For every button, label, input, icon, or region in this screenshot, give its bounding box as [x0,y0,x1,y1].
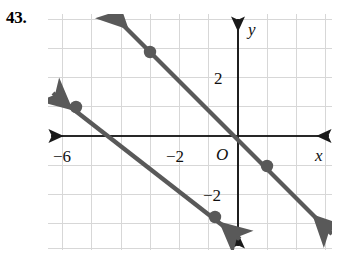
plot-point [70,101,82,113]
plot-point [261,160,273,172]
graph-figure: 43. [0,0,337,261]
problem-number: 43. [6,8,26,28]
x-axis-label: x [314,146,323,165]
coordinate-plane: x y O −6 −2 2 −2 [48,14,332,250]
y-tick-label-2: 2 [214,69,223,88]
x-tick-label-neg6: −6 [53,147,71,166]
plot-point [144,46,156,58]
plot-background [48,14,332,250]
origin-label: O [216,145,228,164]
x-tick-label-neg2: −2 [166,147,184,166]
coordinate-plane-svg: x y O −6 −2 2 −2 [48,14,332,250]
y-tick-label-neg2: −2 [203,186,221,205]
plot-point [209,211,221,223]
y-axis-label: y [246,20,256,39]
